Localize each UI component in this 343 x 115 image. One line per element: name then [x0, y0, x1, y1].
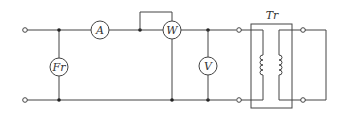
- fr-label: Fr: [52, 61, 67, 74]
- junction-dot: [57, 28, 61, 32]
- primary-coil: [260, 55, 263, 75]
- junction-dot: [170, 98, 174, 102]
- circuit-diagram: Fr A W V Tr: [0, 0, 343, 115]
- transformer-box: [251, 24, 292, 108]
- tr-label: Tr: [266, 9, 279, 22]
- secondary-terminal-bottom: [301, 98, 306, 103]
- voltmeter: V: [199, 57, 217, 75]
- secondary-terminal-top: [301, 28, 306, 33]
- ammeter: A: [91, 21, 109, 39]
- v-label: V: [204, 60, 213, 73]
- secondary-short-circuit: [305, 30, 326, 100]
- w-label: W: [166, 24, 179, 37]
- input-terminal-bottom: [23, 98, 28, 103]
- secondary-coil: [279, 55, 282, 75]
- circuit-svg: Fr A W V Tr: [0, 0, 343, 115]
- primary-terminal-top: [237, 28, 242, 33]
- input-terminal-top: [23, 28, 28, 33]
- a-label: A: [95, 24, 104, 37]
- primary-terminal-bottom: [237, 98, 242, 103]
- wattmeter: W: [163, 21, 181, 39]
- transformer: Tr: [251, 9, 292, 108]
- junction-dot: [57, 98, 61, 102]
- frequency-meter: Fr: [50, 58, 68, 76]
